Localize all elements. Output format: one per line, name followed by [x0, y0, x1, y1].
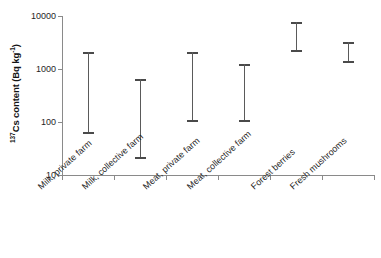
y-tick-mark	[58, 69, 62, 70]
errorbar-cap-low	[291, 50, 302, 52]
x-tick-boundary	[322, 176, 323, 180]
y-tick-label: 10	[46, 170, 56, 180]
errorbar-stem	[296, 22, 297, 52]
errorbar-milk-private-farm	[83, 52, 94, 134]
x-tick-boundary	[270, 176, 271, 180]
errorbar-stem	[244, 64, 245, 122]
y-tick-label: 1000	[36, 64, 56, 74]
y-tick-mark	[58, 16, 62, 17]
errorbar-meat-private-farm	[187, 52, 198, 122]
x-tick-boundary	[62, 176, 63, 180]
x-tick-boundary	[114, 176, 115, 180]
errorbar-stem	[88, 52, 89, 134]
plot-area: 10000 1000 100 10	[62, 16, 375, 175]
errorbar-stem	[348, 42, 349, 63]
x-tick-boundary	[218, 176, 219, 180]
errorbar-cap-low	[135, 157, 146, 159]
errorbar-milk-collective-farm	[135, 79, 146, 159]
y-tick-label: 10000	[31, 11, 56, 21]
x-tick-boundary	[374, 176, 375, 180]
y-tick-mark	[58, 122, 62, 123]
errorbar-stem	[140, 79, 141, 159]
y-axis-line	[62, 16, 63, 176]
errorbar-fresh-mushrooms	[343, 42, 354, 63]
y-axis-label-exponent-superscript: -1	[8, 47, 15, 53]
y-axis-label-base: Cs content (Bq kg	[10, 52, 21, 132]
errorbar-cap-low	[83, 132, 94, 134]
errorbar-cap-low	[239, 120, 250, 122]
y-tick-label: 100	[41, 117, 56, 127]
errorbar-cap-low	[343, 61, 354, 63]
chart-figure: 137Cs content (Bq kg-1) 10000 1000 100 1…	[0, 0, 381, 258]
y-axis-label-close-paren: )	[10, 44, 21, 47]
y-axis-label-isotope-superscript: 137	[8, 132, 15, 143]
y-axis-label: 137Cs content (Bq kg-1)	[10, 44, 21, 143]
errorbar-cap-low	[187, 120, 198, 122]
errorbar-meat-collective-farm	[239, 64, 250, 122]
errorbar-forest-berries	[291, 22, 302, 52]
errorbar-stem	[192, 52, 193, 122]
x-tick-boundary	[166, 176, 167, 180]
y-axis-label-container: 137Cs content (Bq kg-1)	[0, 0, 30, 186]
